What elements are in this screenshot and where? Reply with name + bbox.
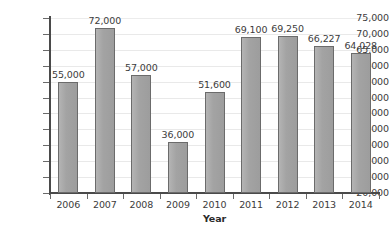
bar-2010[interactable] (205, 92, 225, 193)
bar-2013[interactable] (314, 46, 334, 193)
bar-value-label-2014: 64,028 (336, 40, 386, 51)
bar-value-label-2009: 36,000 (153, 129, 203, 140)
x-axis-tick-label-2014: 2014 (339, 199, 383, 210)
bar-value-label-2007: 72,000 (80, 15, 130, 26)
bar-2012[interactable] (278, 36, 298, 193)
x-axis-tick (50, 194, 51, 199)
bar-2009[interactable] (168, 142, 188, 193)
y-axis-tick-label: 70,000 (345, 29, 389, 39)
bar-chart: 20,00025,00030,00035,00040,00045,00050,0… (0, 0, 389, 234)
y-axis-line (49, 16, 51, 195)
y-axis-tick-label: 75,000 (345, 13, 389, 23)
bar-2014[interactable] (351, 53, 371, 193)
bar-value-label-2010: 51,600 (190, 79, 240, 90)
bar-value-label-2008: 57,000 (116, 62, 166, 73)
bar-2007[interactable] (95, 28, 115, 193)
bar-2006[interactable] (58, 82, 78, 193)
bar-2011[interactable] (241, 37, 261, 193)
bar-value-label-2006: 55,000 (43, 69, 93, 80)
bar-2008[interactable] (131, 75, 151, 193)
x-axis-title: Year (50, 213, 379, 224)
